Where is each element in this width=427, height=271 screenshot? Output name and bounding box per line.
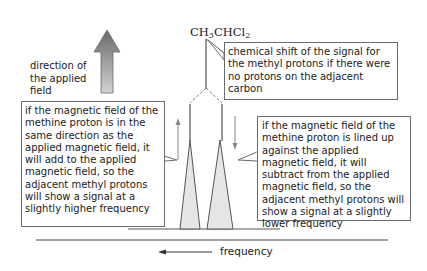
frequency-arrow-icon xyxy=(158,250,212,255)
up-arrow-icon xyxy=(176,118,181,160)
callout-opposite-direction: if the magnetic field of the methine pro… xyxy=(257,116,411,221)
callout-chemical-shift: chemical shift of the signal for the met… xyxy=(224,42,398,100)
applied-field-arrow-icon xyxy=(94,30,120,93)
field-direction-label: direction of the applied field xyxy=(30,60,92,98)
callout-pointer-right xyxy=(238,152,257,161)
callout-same-direction: if the magnetic field of the methine pro… xyxy=(21,101,165,227)
compound-formula: CH3CHCl2 xyxy=(190,25,250,40)
splitting-dashes xyxy=(190,88,222,103)
split-signal-lines xyxy=(190,104,222,141)
frequency-axis-label: frequency xyxy=(220,245,273,257)
down-arrow-icon xyxy=(233,116,238,150)
callout-pointer-top xyxy=(208,40,224,60)
formula-part: CHCl xyxy=(214,25,245,39)
formula-part: CH xyxy=(190,25,209,39)
formula-subscript: 2 xyxy=(245,31,250,40)
doublet-peaks xyxy=(180,140,233,229)
